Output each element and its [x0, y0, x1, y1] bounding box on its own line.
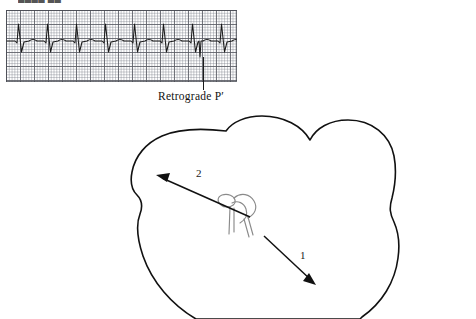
figure-root: ████ ██ Retrograde P′	[0, 0, 476, 319]
retrograde-p-label: Retrograde P′	[158, 90, 224, 102]
retrograde-p-pointer-line	[203, 57, 204, 90]
arrow-label-2: 2	[196, 167, 202, 179]
arrow-antegrade-to-ventricle	[264, 236, 316, 285]
arrow-retrograde-to-atrium	[156, 173, 250, 217]
heart-outline-path	[131, 116, 399, 319]
conduction-system-av-node	[218, 194, 256, 237]
arrow-label-1: 1	[300, 249, 306, 261]
clipped-header-text: ████ ██	[18, 0, 78, 3]
